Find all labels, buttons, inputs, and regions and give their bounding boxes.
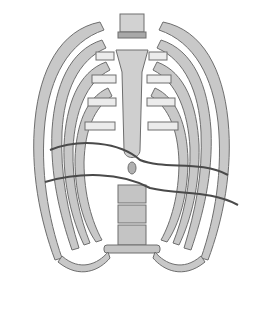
vertebral-column-lower (104, 185, 160, 253)
ribcage-drawing (0, 0, 263, 315)
sternum (116, 50, 148, 158)
ribcage-illustration (0, 0, 263, 315)
vertebra-top (118, 14, 146, 38)
